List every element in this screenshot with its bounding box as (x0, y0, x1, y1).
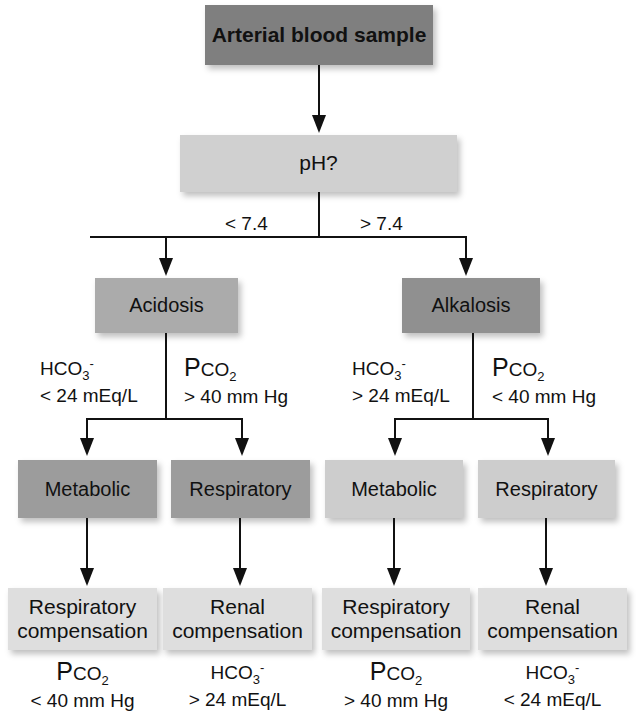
acid-renal-compensation-box: Renal compensation (163, 588, 312, 650)
alkalosis-pco2-condition: PCO2 < 40 mm Hg (492, 352, 596, 409)
alk-metabolic-result: PCO2 > 40 mm Hg (322, 656, 470, 713)
connector-to-acid-metabolic (86, 418, 88, 440)
ph-question-box: pH? (180, 135, 457, 192)
arrow-down-icon (539, 568, 553, 586)
acidosis-hco3-condition: HCO3- < 24 mEq/L (40, 356, 138, 408)
acidosis-label: Acidosis (129, 294, 203, 317)
arrow-down-icon (459, 258, 473, 276)
connector-to-acid-respiratory (241, 418, 243, 440)
connector-acidosis-branch (86, 418, 243, 420)
arrow-down-icon (235, 438, 249, 456)
acid-metabolic-box: Metabolic (18, 460, 157, 518)
connector-alkalosis-down (472, 333, 474, 419)
alkalosis-box: Alkalosis (402, 278, 540, 333)
arrow-down-icon (233, 568, 247, 586)
connector-to-alk-metabolic (394, 418, 396, 440)
alk-respiratory-result: HCO3- < 24 mEq/L (478, 660, 627, 712)
connector-acidosis-down (165, 333, 167, 419)
alkalosis-hco3-condition: HCO3- > 24 mEq/L (352, 356, 450, 408)
threshold-below-label: < 7.4 (225, 212, 268, 236)
arrow-down-icon (388, 438, 402, 456)
connector-to-alkalosis (465, 236, 467, 260)
connector-ph-down (318, 192, 320, 238)
arrow-down-icon (387, 568, 401, 586)
connector-alkalosis-branch (394, 418, 549, 420)
acid-respiratory-result: HCO3- > 24 mEq/L (163, 660, 312, 712)
arrow-down-icon (541, 438, 555, 456)
threshold-above-label: > 7.4 (360, 212, 403, 236)
arterial-blood-sample-box: Arterial blood sample (205, 5, 433, 65)
arrow-down-icon (159, 258, 173, 276)
connector-alk-respiratory-comp (545, 518, 547, 570)
connector-top-to-ph (318, 65, 320, 117)
ph-question-label: pH? (299, 151, 338, 175)
arrow-down-icon (80, 568, 94, 586)
connector-alk-metabolic-comp (393, 518, 395, 570)
connector-to-alk-respiratory (547, 418, 549, 440)
acid-respiratory-box: Respiratory (171, 460, 310, 518)
alk-respiratory-compensation-box: Respiratory compensation (322, 588, 470, 650)
connector-ph-branch (90, 236, 467, 238)
acidosis-box: Acidosis (95, 278, 238, 333)
arrow-down-icon (80, 438, 94, 456)
acid-respiratory-compensation-box: Respiratory compensation (8, 588, 157, 650)
alk-metabolic-box: Metabolic (325, 460, 463, 518)
arterial-blood-sample-label: Arterial blood sample (212, 23, 427, 47)
arrow-down-icon (312, 115, 326, 133)
alk-renal-compensation-box: Renal compensation (478, 588, 627, 650)
alk-respiratory-box: Respiratory (478, 460, 615, 518)
acidosis-pco2-condition: PCO2 > 40 mm Hg (184, 352, 288, 409)
connector-acid-metabolic-comp (86, 518, 88, 570)
connector-to-acidosis (165, 236, 167, 260)
alkalosis-label: Alkalosis (432, 294, 511, 317)
acid-metabolic-result: PCO2 < 40 mm Hg (8, 656, 157, 713)
connector-acid-respiratory-comp (239, 518, 241, 570)
